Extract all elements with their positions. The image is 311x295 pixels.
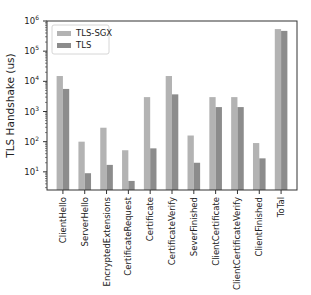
bar-tls-sgx-certificate: [144, 97, 150, 190]
y-axis-label: TLS Handshake (us): [4, 53, 16, 158]
bar-tls-sgx-severfinished: [188, 136, 194, 190]
y-tick-label: 101: [24, 165, 39, 177]
legend-swatch: [57, 31, 71, 36]
bar-tls-total: [281, 31, 287, 190]
bar-tls-sgx-serverhello: [78, 142, 84, 190]
bar-tls-sgx-clientfinished: [253, 143, 259, 190]
bar-tls-sgx-certificateverify: [166, 76, 172, 190]
bar-tls-sgx-encryptedextensions: [100, 128, 106, 190]
x-tick-label: EncryptedExtensions: [102, 196, 112, 286]
chart-canvas: 101102103104105106 ClientHelloServerHell…: [0, 0, 311, 295]
bar-tls-severfinished: [194, 163, 200, 190]
x-tick-label: ClientFinished: [254, 197, 264, 256]
x-tick-label: CertificateRequest: [123, 196, 133, 275]
bar-tls-sgx-clientcertificate: [209, 97, 215, 190]
bar-tls-sgx-clienthello: [57, 76, 63, 190]
y-tick-label: 104: [24, 74, 39, 86]
legend: TLS-SGXTLS: [52, 25, 112, 54]
bar-tls-certificate: [150, 148, 156, 190]
bar-tls-clientcertificate: [216, 107, 222, 190]
legend-swatch: [57, 43, 71, 48]
bar-tls-certificaterequest: [128, 181, 134, 190]
y-tick-label: 105: [24, 44, 39, 56]
bar-chart: 101102103104105106 ClientHelloServerHell…: [0, 0, 311, 295]
bar-tls-encryptedextensions: [107, 165, 113, 190]
y-tick-label: 103: [24, 105, 39, 117]
bar-tls-sgx-clientcertificateverify: [231, 97, 237, 190]
bar-tls-clientfinished: [259, 158, 265, 190]
x-tick-label: ClientCertificateVerify: [232, 197, 242, 290]
legend-label: TLS-SGX: [75, 28, 112, 38]
y-tick-label: 102: [24, 135, 39, 147]
bar-tls-serverhello: [85, 173, 91, 190]
bar-tls-clienthello: [63, 89, 69, 190]
x-tick-label: ToTal: [276, 197, 286, 218]
bar-tls-sgx-total: [275, 29, 281, 190]
x-tick-label: ClientHello: [58, 197, 68, 243]
x-tick-label: ClientCertificate: [211, 197, 221, 266]
bar-tls-clientcertificateverify: [237, 107, 243, 190]
bar-tls-sgx-certificaterequest: [122, 150, 128, 190]
x-tick-label: CertificateVerify: [167, 197, 177, 265]
x-axis: ClientHelloServerHelloEncryptedExtension…: [58, 190, 286, 290]
x-tick-label: Certificate: [145, 197, 155, 241]
legend-label: TLS: [75, 40, 91, 50]
y-tick-label: 106: [24, 14, 39, 26]
x-tick-label: SeverFinished: [189, 197, 199, 256]
bar-tls-certificateverify: [172, 94, 178, 190]
y-axis: 101102103104105106: [24, 14, 47, 188]
x-tick-label: ServerHello: [80, 197, 90, 246]
